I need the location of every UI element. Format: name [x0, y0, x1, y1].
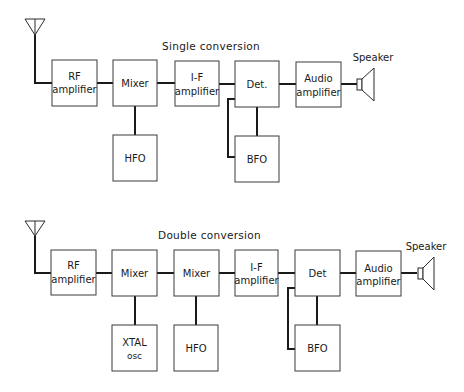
svg-text:HFO: HFO: [185, 343, 206, 354]
svg-text:amplifier: amplifier: [296, 87, 341, 98]
svg-text:RF: RF: [68, 71, 81, 82]
wire-bfo-det-side: [288, 288, 295, 349]
svg-text:Mixer: Mixer: [121, 78, 149, 89]
antenna-wire: [35, 236, 51, 273]
speaker-label: Speaker: [353, 52, 395, 63]
rf-amplifier-block: RF amplifier: [51, 250, 97, 295]
svg-text:HFO: HFO: [124, 153, 145, 164]
svg-text:amplifier: amplifier: [175, 86, 220, 97]
svg-text:XTAL: XTAL: [122, 337, 147, 348]
antenna-icon: [25, 221, 45, 236]
single-conversion-diagram: Single conversion RF amplifier Mixer HFO: [25, 19, 394, 182]
detector-block: Det: [295, 250, 340, 296]
receiver-block-diagrams: Single conversion RF amplifier Mixer HFO: [0, 0, 464, 392]
svg-text:amplifier: amplifier: [51, 274, 96, 285]
svg-text:Mixer: Mixer: [121, 268, 149, 279]
antenna-icon: [25, 19, 45, 35]
speaker-icon: [357, 68, 374, 101]
mixer-block: Mixer: [113, 60, 157, 106]
if-amplifier-block: I-F amplifier: [234, 250, 279, 296]
double-conversion-diagram: Double conversion RF amplifier Mixer: [25, 221, 447, 371]
wire-bfo-det-side: [228, 99, 235, 157]
svg-text:amplifier: amplifier: [52, 84, 97, 95]
single-title: Single conversion: [162, 40, 260, 52]
svg-text:BFO: BFO: [247, 154, 268, 165]
mixer1-block: Mixer: [112, 250, 157, 296]
svg-text:Audio: Audio: [304, 73, 332, 84]
detector-block: Det.: [235, 61, 279, 107]
svg-text:Mixer: Mixer: [183, 268, 211, 279]
hfo-block: HFO: [174, 325, 218, 371]
bfo-block: BFO: [295, 325, 340, 371]
svg-text:RF: RF: [67, 260, 80, 271]
svg-text:osc: osc: [127, 351, 142, 361]
double-title: Double conversion: [158, 229, 261, 241]
if-amplifier-block: I-F amplifier: [175, 61, 220, 106]
speaker-label: Speaker: [406, 241, 448, 252]
svg-text:amplifier: amplifier: [234, 275, 279, 286]
svg-text:I-F: I-F: [250, 262, 263, 273]
svg-text:Det: Det: [309, 268, 327, 279]
rf-amplifier-block: RF amplifier: [52, 60, 98, 106]
mixer2-block: Mixer: [174, 250, 219, 296]
hfo-block: HFO: [113, 135, 157, 181]
svg-text:Audio: Audio: [364, 263, 392, 274]
bfo-block: BFO: [235, 136, 279, 182]
audio-amplifier-block: Audio amplifier: [356, 251, 402, 296]
svg-text:Det.: Det.: [247, 79, 268, 90]
antenna-wire: [35, 35, 52, 83]
xtal-osc-block: XTAL osc: [112, 325, 157, 371]
svg-text:BFO: BFO: [307, 343, 328, 354]
speaker-icon: [418, 257, 434, 290]
svg-text:I-F: I-F: [191, 72, 204, 83]
svg-text:amplifier: amplifier: [356, 276, 401, 287]
audio-amplifier-block: Audio amplifier: [296, 62, 342, 107]
